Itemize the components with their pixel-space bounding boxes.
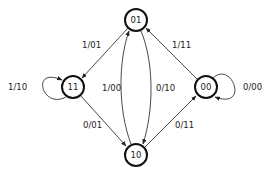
state-label: 11 xyxy=(68,82,79,92)
state-node-01: 01 xyxy=(125,9,147,31)
edge-11-self-loop: 1/10 xyxy=(8,77,66,99)
state-node-00: 00 xyxy=(195,76,217,98)
edge-00-to-01: 1/11 xyxy=(146,28,197,79)
edge-10-to-01: 1/00 xyxy=(102,31,131,144)
edge-label: 1/10 xyxy=(8,82,27,92)
edge-label: 1/11 xyxy=(172,40,191,50)
state-diagram: 1/01 1/10 0/01 1/00 0/10 0/11 xyxy=(0,0,273,176)
edge-11-to-10: 0/01 xyxy=(81,96,126,146)
edge-label: 0/11 xyxy=(175,120,194,130)
edge-label: 1/00 xyxy=(102,83,121,93)
edge-10-to-00: 0/11 xyxy=(145,96,196,147)
edge-label: 0/00 xyxy=(243,82,262,92)
edge-label: 0/01 xyxy=(83,120,102,130)
state-node-11: 11 xyxy=(62,76,84,98)
state-node-10: 10 xyxy=(125,144,147,166)
edge-label: 1/01 xyxy=(82,40,101,50)
edge-00-self-loop: 0/00 xyxy=(213,74,262,99)
edge-01-to-10: 0/10 xyxy=(141,31,175,144)
edge-label: 0/10 xyxy=(156,83,175,93)
state-label: 01 xyxy=(131,15,142,25)
state-label: 00 xyxy=(201,82,212,92)
state-label: 10 xyxy=(131,150,142,160)
